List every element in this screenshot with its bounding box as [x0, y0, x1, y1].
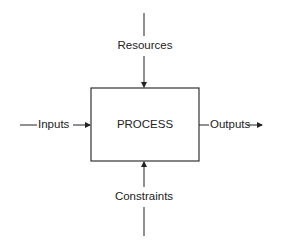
outputs-label: Outputs: [210, 119, 250, 131]
process-label: PROCESS: [117, 119, 173, 131]
resources-label: Resources: [118, 40, 173, 52]
inputs-label: Inputs: [38, 119, 69, 131]
constraints-label: Constraints: [115, 191, 173, 203]
